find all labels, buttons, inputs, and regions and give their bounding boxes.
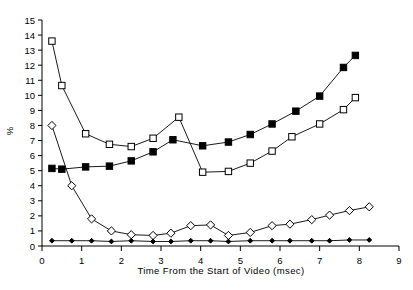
marker-filled-diamond (129, 238, 134, 243)
marker-filled-square (293, 108, 299, 114)
marker-open-diamond (68, 182, 76, 190)
y-tick-label: 3 (30, 195, 35, 206)
marker-open-diamond (246, 228, 254, 236)
marker-filled-square (150, 149, 156, 155)
marker-filled-square (170, 137, 176, 143)
marker-open-square (316, 121, 322, 127)
marker-open-diamond (224, 231, 232, 239)
y-tick-label: 4 (30, 180, 35, 191)
marker-filled-diamond (208, 238, 213, 243)
marker-open-square (340, 106, 346, 112)
y-axis-title: % (4, 126, 15, 135)
y-tick-label: 11 (25, 75, 35, 86)
marker-filled-diamond (327, 238, 332, 243)
x-tick-label: 2 (119, 255, 124, 266)
marker-filled-diamond (347, 238, 352, 243)
y-tick-label: 6 (30, 150, 35, 161)
marker-filled-diamond (89, 238, 94, 243)
marker-open-square (269, 148, 275, 154)
x-axis: 0123456789 (39, 246, 401, 266)
marker-filled-diamond (50, 238, 55, 243)
y-tick-label: 10 (24, 90, 35, 101)
line-chart: 0123456789101112131415 0123456789 Time F… (0, 0, 413, 290)
marker-filled-square (247, 131, 253, 137)
y-tick-label: 14 (24, 30, 35, 41)
marker-open-square (199, 169, 205, 175)
y-tick-label: 1 (30, 225, 35, 236)
marker-filled-square (340, 64, 346, 70)
y-tick-label: 7 (30, 135, 35, 146)
marker-open-diamond (345, 206, 353, 214)
marker-open-square (247, 160, 253, 166)
marker-open-square (352, 94, 358, 100)
marker-open-diamond (308, 216, 316, 224)
marker-open-diamond (268, 222, 276, 230)
marker-open-diamond (48, 121, 56, 129)
marker-open-square (82, 131, 88, 137)
marker-open-square (225, 168, 231, 174)
marker-open-square (106, 141, 112, 147)
marker-filled-diamond (367, 238, 372, 243)
marker-filled-square (128, 158, 134, 164)
y-axis: 0123456789101112131415 (24, 15, 42, 252)
marker-filled-square (106, 163, 112, 169)
marker-filled-diamond (270, 238, 275, 243)
y-tick-label: 2 (30, 210, 35, 221)
marker-open-diamond (206, 221, 214, 229)
marker-open-square (289, 134, 295, 140)
series-filled-square-series (49, 52, 359, 172)
marker-filled-diamond (248, 238, 253, 243)
x-tick-label: 7 (317, 255, 322, 266)
x-tick-label: 1 (79, 255, 84, 266)
marker-open-diamond (365, 203, 373, 211)
y-tick-label: 13 (24, 45, 35, 56)
marker-filled-diamond (188, 238, 193, 243)
marker-filled-square (59, 166, 65, 172)
y-tick-label: 5 (30, 165, 35, 176)
chart-container: 0123456789101112131415 0123456789 Time F… (0, 0, 413, 290)
y-tick-label: 15 (24, 15, 35, 26)
x-tick-label: 8 (357, 255, 362, 266)
marker-filled-diamond (69, 238, 74, 243)
series-line (52, 41, 355, 172)
marker-open-diamond (286, 220, 294, 228)
marker-filled-diamond (169, 239, 174, 244)
y-tick-label: 8 (30, 120, 35, 131)
y-tick-label: 0 (30, 241, 35, 252)
marker-open-diamond (167, 229, 175, 237)
marker-open-diamond (87, 215, 95, 223)
marker-open-square (176, 114, 182, 120)
series-filled-diamond-series (50, 238, 372, 244)
marker-filled-square (316, 93, 322, 99)
marker-open-diamond (127, 231, 135, 239)
y-tick-label: 9 (30, 105, 35, 116)
x-tick-label: 0 (39, 255, 44, 266)
x-axis-title: Time From the Start of Video (msec) (137, 265, 304, 276)
series-line (52, 55, 355, 169)
y-tick-label: 12 (24, 60, 35, 71)
marker-open-diamond (149, 231, 157, 239)
marker-filled-square (269, 121, 275, 127)
marker-open-square (128, 143, 134, 149)
marker-open-square (59, 82, 65, 88)
marker-open-square (49, 38, 55, 44)
marker-filled-square (199, 143, 205, 149)
marker-open-diamond (325, 211, 333, 219)
marker-open-diamond (187, 222, 195, 230)
marker-filled-square (49, 165, 55, 171)
marker-filled-square (82, 164, 88, 170)
marker-filled-square (352, 52, 358, 58)
marker-filled-diamond (288, 238, 293, 243)
marker-filled-square (225, 139, 231, 145)
marker-filled-diamond (226, 239, 231, 244)
marker-open-square (150, 135, 156, 141)
marker-open-diamond (107, 227, 115, 235)
marker-filled-diamond (309, 238, 314, 243)
data-series-group (48, 38, 374, 244)
series-line (52, 125, 369, 235)
marker-filled-diamond (109, 239, 114, 244)
series-open-square-series (49, 38, 359, 175)
marker-filled-diamond (151, 239, 156, 244)
x-tick-label: 9 (396, 255, 401, 266)
